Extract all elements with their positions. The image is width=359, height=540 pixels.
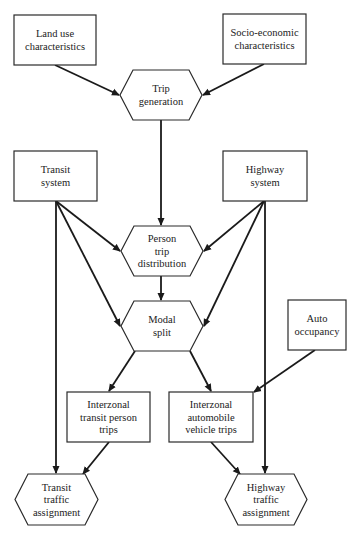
node-label: Interzonal xyxy=(87,399,130,410)
node-land-use: Land usecharacteristics xyxy=(14,15,96,65)
node-label: vehicle trips xyxy=(185,424,237,435)
node-label: system xyxy=(250,177,279,188)
node-label: split xyxy=(153,327,171,338)
node-transit-assignment: Transittrafficassignment xyxy=(15,474,98,525)
node-label: Transit xyxy=(42,482,71,493)
flow-diagram: Land usecharacteristicsSocio-economiccha… xyxy=(0,0,359,540)
node-label: characteristics xyxy=(25,41,85,52)
node-label: assignment xyxy=(242,507,289,518)
node-label: Modal xyxy=(148,314,175,325)
arrow-transit-system-to-person-trip-distribution xyxy=(56,201,120,251)
node-label: assignment xyxy=(33,507,80,518)
node-interzonal-auto: Interzonalautomobilevehicle trips xyxy=(169,392,253,442)
node-label: Interzonal xyxy=(190,399,233,410)
arrow-modal-split-to-interzonal-transit xyxy=(109,351,135,391)
arrow-highway-system-to-person-trip-distribution xyxy=(204,201,264,251)
node-label: characteristics xyxy=(234,40,294,51)
node-person-trip-distribution: Persontripdistribution xyxy=(121,226,203,276)
node-label: Transit xyxy=(41,164,70,175)
node-label: Auto xyxy=(307,313,328,324)
arrow-interzonal-auto-to-highway-assignment xyxy=(211,442,240,474)
node-auto-occupancy: Autooccupancy xyxy=(288,300,346,350)
arrow-highway-system-to-modal-split xyxy=(204,201,264,326)
node-transit-system: Transitsystem xyxy=(14,151,97,201)
node-label: trip xyxy=(155,246,170,257)
node-modal-split: Modalsplit xyxy=(121,301,203,351)
node-label: generation xyxy=(139,96,184,107)
node-label: Socio-economic xyxy=(230,27,299,38)
node-label: trips xyxy=(99,424,118,435)
node-label: distribution xyxy=(138,258,187,269)
node-label: occupancy xyxy=(295,326,341,337)
node-label: traffic xyxy=(253,494,279,505)
arrow-modal-split-to-interzonal-auto xyxy=(190,351,211,391)
arrow-land-use-to-trip-generation xyxy=(55,65,119,95)
node-label: automobile xyxy=(187,412,235,423)
node-highway-assignment: Highwaytrafficassignment xyxy=(225,474,307,525)
arrow-auto-occupancy-to-interzonal-auto xyxy=(254,350,315,392)
arrow-transit-system-to-modal-split xyxy=(56,201,120,326)
node-label: Trip xyxy=(152,83,170,94)
nodes-layer: Land usecharacteristicsSocio-economiccha… xyxy=(14,14,346,525)
arrow-interzonal-transit-to-transit-assignment xyxy=(83,442,109,474)
node-trip-generation: Tripgeneration xyxy=(120,70,202,120)
node-label: Highway xyxy=(246,164,285,175)
node-label: Person xyxy=(148,233,177,244)
node-label: transit person xyxy=(80,412,138,423)
node-label: Land use xyxy=(36,28,75,39)
node-highway-system: Highwaysystem xyxy=(223,151,307,201)
node-interzonal-transit: Interzonaltransit persontrips xyxy=(67,392,150,442)
node-label: traffic xyxy=(44,494,70,505)
arrow-socio-economic-to-trip-generation xyxy=(203,64,264,95)
node-socio-economic: Socio-economiccharacteristics xyxy=(223,14,306,64)
node-label: system xyxy=(41,177,70,188)
node-label: Highway xyxy=(247,482,286,493)
